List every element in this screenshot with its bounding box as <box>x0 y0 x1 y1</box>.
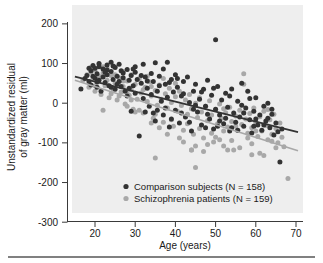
x-tick-label: 20 <box>89 228 101 239</box>
data-point <box>249 152 254 157</box>
data-point <box>221 144 226 149</box>
y-axis-title-line1: Unstandardized residual <box>6 63 17 171</box>
data-point <box>223 116 228 121</box>
data-point <box>90 74 95 79</box>
figure-container: 2001000-100-200-300 203040506070 Compari… <box>0 0 323 263</box>
data-point <box>167 125 172 130</box>
data-point <box>225 105 230 110</box>
x-axis-title: Age (years) <box>159 240 211 251</box>
data-point <box>247 96 252 101</box>
data-point <box>84 73 89 78</box>
x-tick-label: 30 <box>130 228 142 239</box>
data-point <box>97 64 102 69</box>
data-point <box>161 113 166 118</box>
data-point <box>145 78 150 83</box>
data-point <box>149 71 154 76</box>
data-point <box>175 85 180 90</box>
legend-marker-schizophrenia <box>123 196 128 201</box>
data-point <box>129 109 134 114</box>
data-point <box>203 125 208 130</box>
data-point <box>177 121 182 126</box>
y-tick-label: 100 <box>41 58 58 69</box>
data-point <box>209 131 214 136</box>
data-point <box>141 62 146 67</box>
data-point <box>205 142 210 147</box>
data-point <box>251 124 256 129</box>
data-point <box>139 81 144 86</box>
data-point <box>273 121 278 126</box>
x-tick-label: 60 <box>250 228 262 239</box>
legend-label-schizophrenia: Schizophrenia patients (N = 159) <box>134 193 273 204</box>
data-point <box>249 141 254 146</box>
data-point <box>129 73 134 78</box>
scatter-plot: 2001000-100-200-300 203040506070 Compari… <box>0 0 323 263</box>
data-point <box>229 138 234 143</box>
data-point <box>151 79 156 84</box>
data-point <box>167 80 172 85</box>
data-point <box>185 75 190 80</box>
data-point <box>181 128 186 133</box>
data-point <box>189 128 194 133</box>
data-point <box>131 67 136 72</box>
data-point <box>169 117 174 122</box>
data-point <box>175 76 180 81</box>
data-point <box>193 144 198 149</box>
legend-label-comparison: Comparison subjects (N = 158) <box>134 181 265 192</box>
data-point <box>153 155 158 160</box>
data-point <box>207 117 212 122</box>
data-point <box>135 77 140 82</box>
data-point <box>165 132 170 137</box>
data-point <box>205 112 210 117</box>
data-point <box>207 98 212 103</box>
data-point <box>201 149 206 154</box>
data-point <box>201 136 206 141</box>
data-point <box>157 125 162 130</box>
data-point <box>219 98 224 103</box>
data-point <box>211 86 216 91</box>
x-tick-label: 50 <box>210 228 222 239</box>
data-point <box>187 120 192 125</box>
y-tick-label: 200 <box>41 18 58 29</box>
data-point <box>157 83 162 88</box>
legend-marker-comparison <box>123 184 128 189</box>
data-point <box>171 90 176 95</box>
data-point <box>153 119 158 124</box>
data-point <box>115 74 120 79</box>
x-tick-label: 70 <box>290 228 302 239</box>
data-point <box>241 71 246 76</box>
data-point <box>261 153 266 158</box>
data-point <box>233 120 238 125</box>
data-point <box>157 74 162 79</box>
data-point <box>139 73 144 78</box>
data-point <box>277 159 282 164</box>
data-point <box>103 70 108 75</box>
data-point <box>78 86 83 91</box>
y-tick-label: -200 <box>38 177 58 188</box>
data-point <box>209 93 214 98</box>
data-point <box>155 89 160 94</box>
y-tick-label: -100 <box>38 137 58 148</box>
data-point <box>181 91 186 96</box>
data-point <box>137 134 142 139</box>
data-point <box>225 148 230 153</box>
data-point <box>121 75 126 80</box>
data-point <box>239 103 244 108</box>
data-point <box>253 95 258 100</box>
data-point <box>265 116 270 121</box>
data-point <box>187 92 192 97</box>
data-point <box>269 107 274 112</box>
data-point <box>231 148 236 153</box>
data-point <box>125 67 130 72</box>
data-point <box>143 109 148 114</box>
data-point <box>227 94 232 99</box>
data-point <box>205 78 210 83</box>
data-point <box>173 94 178 99</box>
data-point <box>235 99 240 104</box>
data-point <box>237 145 242 150</box>
data-point <box>125 104 130 109</box>
data-point <box>199 90 204 95</box>
data-point <box>213 135 218 140</box>
x-axis: 203040506070 <box>68 222 304 240</box>
data-point <box>189 148 194 153</box>
data-point <box>177 136 182 141</box>
